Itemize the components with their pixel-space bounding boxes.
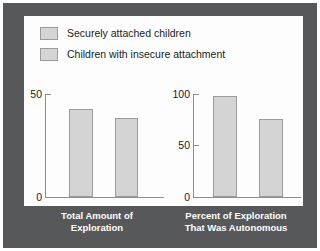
y-axis-line-right — [193, 94, 194, 198]
bar-left-insecure-attachment — [115, 118, 138, 197]
bar-right-securely-attached — [213, 96, 237, 197]
y-tick-label-50-right: 50 — [162, 140, 190, 151]
y-tick-label-100-right: 100 — [162, 89, 190, 100]
y-tick-mark-50-left — [45, 94, 51, 95]
x-axis-line-left — [45, 197, 164, 198]
caption-total-amount-of-exploration: Total Amount of Exploration — [27, 210, 167, 234]
y-tick-mark-100-right — [193, 94, 199, 95]
y-tick-label-0-right: 0 — [162, 192, 190, 203]
y-tick-label-50-left: 50 — [12, 89, 42, 100]
bar-left-securely-attached — [69, 109, 93, 197]
chart-total-amount-of-exploration: 50 0 — [24, 16, 170, 206]
y-tick-label-0-left: 0 — [12, 192, 42, 203]
x-axis-line-right — [193, 197, 301, 198]
chart-panel: Securely attached children Children with… — [24, 16, 303, 206]
bar-right-insecure-attachment — [259, 119, 283, 197]
y-axis-line-left — [45, 94, 46, 198]
plot-area-left: 50 0 — [24, 16, 170, 206]
caption-percent-of-exploration-autonomous: Percent of Exploration That Was Autonomo… — [166, 210, 306, 234]
y-tick-mark-50-right — [193, 145, 199, 146]
figure-frame: Securely attached children Children with… — [3, 3, 317, 248]
chart-percent-of-exploration-autonomous: 100 50 0 — [170, 16, 303, 206]
figure-root: Securely attached children Children with… — [0, 0, 320, 251]
plot-area-right: 100 50 0 — [170, 16, 303, 206]
